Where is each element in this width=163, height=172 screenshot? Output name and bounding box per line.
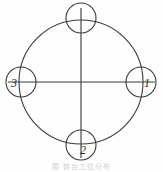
figure-caption: 图 转台工位分布 [0,161,163,171]
station-left-label: 3 [10,76,17,90]
figure-container: 1 2 3 图 转台工位分布 [0,0,163,172]
rotary-table-diagram: 1 2 3 [0,0,163,172]
station-right-label: 1 [144,76,150,90]
station-bottom-label: 2 [80,143,86,157]
